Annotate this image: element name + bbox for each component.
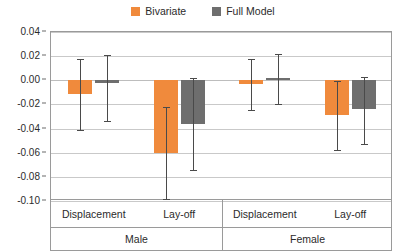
y-axis-tick-mark <box>42 79 46 80</box>
group-divider <box>222 200 223 227</box>
error-bar-cap <box>77 130 84 131</box>
error-bar <box>193 78 194 170</box>
error-bar-cap <box>275 104 282 105</box>
legend-swatch-bivariate-icon <box>131 7 140 16</box>
y-axis-tick-mark <box>42 200 46 201</box>
legend-label-bivariate: Bivariate <box>145 6 186 17</box>
y-axis-tick-mark <box>42 175 46 176</box>
group-label-female: Female <box>222 228 393 250</box>
error-bar <box>251 59 252 111</box>
chart-legend: Bivariate Full Model <box>0 6 406 17</box>
y-axis-tick-mark <box>42 55 46 56</box>
error-bar-cap <box>275 54 282 55</box>
error-bar-cap <box>104 55 111 56</box>
error-bar-cap <box>77 59 84 60</box>
gridline <box>51 32 391 33</box>
error-bar <box>278 54 279 105</box>
y-axis-tick-mark <box>42 103 46 104</box>
error-bar-cap <box>190 78 197 79</box>
y-axis-tick-label: 0.00 <box>21 74 40 85</box>
group-axis-row: MaleFemale <box>50 228 392 251</box>
legend-label-full-model: Full Model <box>226 6 274 17</box>
error-bar-cap <box>334 150 341 151</box>
y-axis-tick-label: -0.02 <box>17 98 40 109</box>
y-axis-tick-label: -0.06 <box>17 146 40 157</box>
group-label-male: Male <box>51 228 222 250</box>
y-axis-tick-label: 0.02 <box>21 50 40 61</box>
gridline <box>51 177 391 178</box>
error-bar-cap <box>248 59 255 60</box>
y-axis-tick-label: -0.08 <box>17 170 40 181</box>
y-axis-tick-label: -0.10 <box>17 195 40 206</box>
error-bar-cap <box>190 170 197 171</box>
error-bar <box>337 81 338 150</box>
category-label-displacement: Displacement <box>51 200 137 227</box>
y-axis-tick-mark <box>42 151 46 152</box>
legend-swatch-full-model-icon <box>212 7 221 16</box>
chart-container: Bivariate Full Model 0.040.020.00-0.02-0… <box>0 0 406 252</box>
error-bar-cap <box>104 121 111 122</box>
category-axis-row: DisplacementLay-offDisplacementLay-off <box>50 200 392 228</box>
error-bar-cap <box>248 110 255 111</box>
y-axis-tick-label: -0.04 <box>17 122 40 133</box>
category-label-displacement: Displacement <box>222 200 308 227</box>
gridline <box>51 153 391 154</box>
gridline <box>51 56 391 57</box>
error-bar-cap <box>334 81 341 82</box>
category-label-lay-off: Lay-off <box>308 200 394 227</box>
gridline <box>51 129 391 130</box>
error-bar <box>107 55 108 121</box>
legend-item-bivariate: Bivariate <box>131 6 186 17</box>
error-bar <box>166 107 167 199</box>
error-bar <box>80 59 81 130</box>
error-bar-cap <box>361 77 368 78</box>
plot-area <box>50 31 392 200</box>
category-label-lay-off: Lay-off <box>137 200 223 227</box>
y-axis-tick-mark <box>42 127 46 128</box>
error-bar-cap <box>361 144 368 145</box>
y-axis-tick-mark <box>42 31 46 32</box>
error-bar <box>364 77 365 145</box>
y-axis-tick-label: 0.04 <box>21 26 40 37</box>
error-bar-cap <box>163 107 170 108</box>
legend-item-full-model: Full Model <box>212 6 274 17</box>
y-axis: 0.040.020.00-0.02-0.04-0.06-0.08-0.10 <box>0 31 46 200</box>
